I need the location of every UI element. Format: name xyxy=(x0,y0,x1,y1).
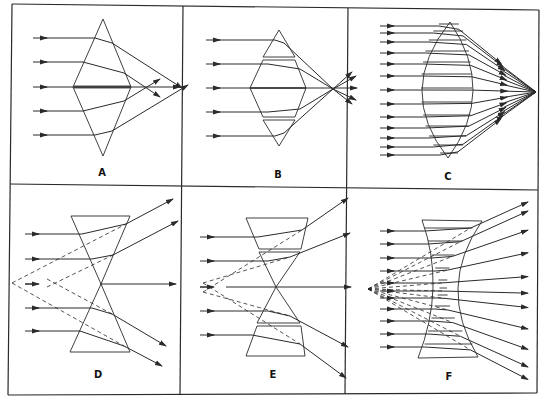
panel-label-f: F xyxy=(446,370,453,383)
frame-col-divider-2 xyxy=(345,8,348,394)
prism-upper-triangle xyxy=(259,252,300,287)
frame-top xyxy=(12,4,539,10)
inside-ray-10 xyxy=(428,334,460,336)
refracted-ray-4 xyxy=(83,79,160,111)
inside-ray-4 xyxy=(425,53,469,55)
converging-ray-3-arrow-icon xyxy=(466,45,504,71)
panel-label-e: E xyxy=(270,368,277,381)
diverging-ray-4 xyxy=(447,253,528,270)
panel-label-c: C xyxy=(444,170,451,183)
panel-e: E xyxy=(200,198,351,381)
frame-right xyxy=(537,10,539,393)
inside-ray-3 xyxy=(429,42,466,45)
converging-ray-4 xyxy=(504,75,536,92)
panel-a: A xyxy=(33,19,188,179)
prism-top xyxy=(263,30,295,57)
inside-ray-1 xyxy=(439,26,459,29)
prism-bottom-trapezoid xyxy=(246,326,305,356)
virtual-ray-8 xyxy=(368,289,448,310)
frame-col-divider-1 xyxy=(180,6,183,395)
converging-ray-13 xyxy=(499,92,536,119)
diverging-ray-2 xyxy=(268,233,350,261)
converging-ray-7-arrow-icon xyxy=(472,90,507,91)
prism-bottom xyxy=(263,120,295,146)
panel-label-d: D xyxy=(94,368,102,381)
diverging-ray-6 xyxy=(445,291,528,293)
inside-ray-1 xyxy=(425,228,471,231)
virtual-ray-4 xyxy=(368,270,447,289)
panel-label-a: A xyxy=(98,166,106,179)
panel-label-b: B xyxy=(274,168,282,181)
inside-ray-8 xyxy=(422,103,472,104)
inside-ray-2 xyxy=(428,242,460,244)
refracted-ray-2 xyxy=(83,62,160,97)
refracted-ray-1 xyxy=(275,40,352,104)
diverging-ray-4 xyxy=(92,308,166,346)
diverging-ray-2 xyxy=(460,211,528,242)
converging-ray-1-arrow-icon xyxy=(459,29,501,63)
virtual-ray-1 xyxy=(12,224,126,283)
panel-c: C xyxy=(380,22,536,183)
inside-ray-9 xyxy=(423,116,470,117)
inside-ray-11 xyxy=(425,347,471,350)
virtual-ray-5 xyxy=(12,283,124,346)
frame-bottom xyxy=(8,393,537,395)
virtual-ray-10 xyxy=(368,289,460,336)
diverging-ray-2 xyxy=(92,221,178,259)
panel-f: F xyxy=(368,202,528,383)
figure-canvas: A B C D E F xyxy=(0,0,545,401)
lens-diagram-figure: A B C D E F xyxy=(0,0,545,401)
diverging-ray-4 xyxy=(268,311,348,347)
prism-lower-trapezoid xyxy=(250,88,306,117)
virtual-ray-4 xyxy=(203,292,290,316)
diverging-ray-1 xyxy=(82,199,173,234)
virtual-ray-5 xyxy=(368,283,445,289)
inside-ray-2 xyxy=(433,33,463,36)
diverging-ray-8 xyxy=(448,310,528,329)
panel-b: B xyxy=(206,30,357,181)
diverging-ray-5 xyxy=(445,277,528,283)
virtual-ray-1 xyxy=(368,228,470,289)
inside-ray-6 xyxy=(422,76,472,77)
frame-row-divider xyxy=(10,184,538,190)
panel-d: D xyxy=(12,199,178,381)
virtual-ray-2 xyxy=(368,242,460,289)
inside-ray-5 xyxy=(423,64,471,65)
inside-ray-10 xyxy=(426,126,469,128)
diverging-ray-7 xyxy=(446,298,528,307)
virtual-ray-3 xyxy=(368,256,452,289)
refracted-ray-5 xyxy=(275,72,352,136)
converging-ray-8-arrow-icon xyxy=(472,97,507,103)
diverging-ray-1 xyxy=(258,198,348,237)
frame-left xyxy=(8,4,12,395)
refracted-ray-1 xyxy=(95,38,182,88)
diverging-ray-3 xyxy=(452,230,528,256)
converging-ray-12-arrow-icon xyxy=(463,116,503,145)
refracted-ray-5 xyxy=(95,85,188,135)
diverging-ray-5 xyxy=(252,335,346,378)
